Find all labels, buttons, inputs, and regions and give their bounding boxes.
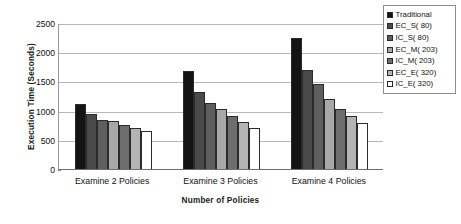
y-tick-label: 2000: [36, 48, 55, 58]
y-tick-label: 2500: [36, 19, 55, 29]
legend-item[interactable]: EC_M( 203): [387, 44, 453, 56]
x-axis-category-labels: Examine 2 PoliciesExamine 3 PoliciesExam…: [58, 176, 383, 186]
bar-chart: Execution Time (Seconds) 050010001500200…: [0, 0, 461, 224]
bar[interactable]: [291, 38, 302, 169]
bar[interactable]: [227, 116, 238, 169]
legend-swatch-icon: [387, 58, 393, 64]
y-tick-label: 1500: [36, 77, 55, 87]
bar[interactable]: [249, 128, 260, 169]
bar[interactable]: [183, 71, 194, 169]
x-tick-label: Examine 2 Policies: [58, 176, 166, 186]
legend-item[interactable]: IC_M( 203): [387, 55, 453, 67]
bar[interactable]: [194, 92, 205, 169]
legend-swatch-icon: [387, 70, 393, 76]
legend-label: IC_M( 203): [396, 57, 435, 65]
x-tick-label: Examine 4 Policies: [275, 176, 383, 186]
y-tick-label: 500: [41, 136, 55, 146]
bar[interactable]: [141, 131, 152, 169]
legend-swatch-icon: [387, 81, 393, 87]
legend-label: Traditional: [396, 11, 432, 19]
x-tick-label: Examine 3 Policies: [166, 176, 274, 186]
y-tick-label: 0: [50, 165, 55, 175]
bar-group: [275, 24, 383, 169]
bar[interactable]: [75, 104, 86, 169]
chart-legend: TraditionalEC_S( 80)IC_S( 80)EC_M( 203)I…: [383, 5, 456, 94]
bar[interactable]: [324, 99, 335, 169]
bar[interactable]: [130, 128, 141, 169]
bar[interactable]: [108, 121, 119, 169]
y-tick-label: 1000: [36, 107, 55, 117]
bar-groups: [59, 24, 383, 169]
legend-item[interactable]: Traditional: [387, 9, 453, 21]
legend-item[interactable]: IC_E( 320): [387, 79, 453, 91]
bar[interactable]: [335, 109, 346, 169]
bar-group: [167, 24, 275, 169]
bar[interactable]: [346, 116, 357, 169]
legend-swatch-icon: [387, 47, 393, 53]
bar[interactable]: [313, 84, 324, 169]
legend-swatch-icon: [387, 35, 393, 41]
bar[interactable]: [205, 103, 216, 169]
legend-item[interactable]: EC_S( 80): [387, 21, 453, 33]
bar[interactable]: [86, 114, 97, 169]
legend-item[interactable]: IC_S( 80): [387, 32, 453, 44]
legend-label: EC_E( 320): [396, 69, 437, 77]
bar[interactable]: [238, 122, 249, 169]
x-axis-title: Number of Policies: [58, 196, 383, 205]
y-axis-ticks: 05001000150020002500: [18, 18, 58, 176]
bar[interactable]: [216, 109, 227, 169]
bar-group: [59, 24, 167, 169]
legend-label: IC_E( 320): [396, 80, 434, 88]
legend-swatch-icon: [387, 23, 393, 29]
bar[interactable]: [357, 123, 368, 169]
legend-swatch-icon: [387, 12, 393, 18]
legend-item[interactable]: EC_E( 320): [387, 67, 453, 79]
bar[interactable]: [302, 70, 313, 169]
y-tick-mark: [58, 170, 61, 171]
legend-label: EC_S( 80): [396, 22, 432, 30]
plot-area: [58, 24, 383, 170]
bar[interactable]: [97, 120, 108, 169]
bar[interactable]: [119, 125, 130, 169]
legend-label: IC_S( 80): [396, 34, 429, 42]
legend-label: EC_M( 203): [396, 46, 438, 54]
